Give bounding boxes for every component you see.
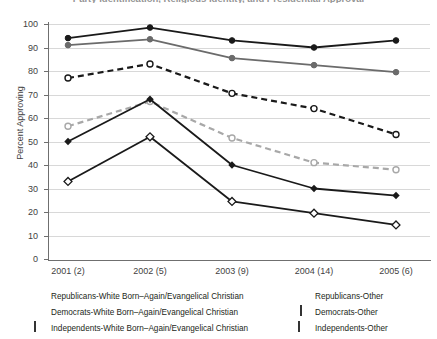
filled-diamond-black-icon [33, 306, 45, 318]
open-square-icon [297, 322, 309, 334]
legend-label: Independents-White Born–Again/Evangelica… [51, 324, 248, 333]
data-point [393, 131, 399, 137]
data-point [147, 25, 153, 31]
legend-column-left: Republicans-White Born–Again/Evangelical… [33, 288, 293, 336]
filled-square-gray-icon [297, 290, 309, 302]
data-point [392, 192, 399, 199]
legend-item-republicans-other[interactable]: Republicans-Other [297, 288, 437, 304]
series-5 [64, 133, 400, 229]
chart-root: Party Identification, Religious Identity… [0, 0, 437, 339]
data-point [65, 123, 71, 129]
data-point [310, 209, 318, 217]
series-4 [64, 96, 399, 200]
data-point [310, 185, 317, 192]
data-point [229, 55, 235, 61]
data-point [65, 42, 71, 48]
legend-item-democrats-other[interactable]: Democrats-Other [297, 304, 437, 320]
series-line [68, 137, 396, 225]
data-point [311, 62, 317, 68]
data-point [229, 90, 235, 96]
legend-column-right: Republicans-Other Democrats-Other Indepe… [297, 288, 437, 336]
data-point [229, 135, 235, 141]
legend-item-independents-other[interactable]: Independents-Other [297, 320, 437, 336]
series-2 [65, 61, 399, 138]
data-point [229, 38, 235, 44]
legend-item-democrats-evangelical[interactable]: Democrats-White Born–Again/Evangelical C… [33, 304, 293, 320]
data-point [65, 35, 71, 41]
legend-label: Democrats-Other [315, 308, 378, 317]
data-point [393, 167, 399, 173]
legend-label: Republicans-White Born–Again/Evangelical… [51, 292, 244, 301]
chart-legend: Republicans-White Born–Again/Evangelical… [33, 288, 433, 336]
open-square-icon [33, 322, 45, 334]
data-point [392, 221, 400, 229]
legend-label: Independents-Other [315, 324, 388, 333]
series-0 [65, 25, 399, 51]
data-point [64, 138, 71, 145]
data-point [311, 106, 317, 112]
data-point [147, 36, 153, 42]
legend-item-republicans-evangelical[interactable]: Republicans-White Born–Again/Evangelical… [33, 288, 293, 304]
legend-label: Republicans-Other [315, 292, 383, 301]
data-point [311, 160, 317, 166]
legend-item-independents-evangelical[interactable]: Independents-White Born–Again/Evangelica… [33, 320, 293, 336]
data-point [64, 177, 72, 185]
data-point [393, 69, 399, 75]
data-point [393, 38, 399, 44]
data-point [65, 75, 71, 81]
series-line [68, 64, 396, 135]
filled-square-black-icon [33, 290, 45, 302]
open-diamond-icon [297, 306, 309, 318]
data-point [311, 45, 317, 51]
data-point [147, 61, 153, 67]
legend-label: Democrats-White Born–Again/Evangelical C… [51, 308, 238, 317]
series-line [68, 99, 396, 195]
